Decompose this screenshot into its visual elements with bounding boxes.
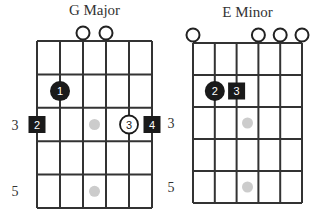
chord-e-minor: E Minor3523 [168,4,309,203]
finger-number: 4 [149,119,155,131]
finger-number: 3 [126,119,132,131]
chord-diagrams: G Major351234E Minor3523 [0,0,325,220]
fret-number-label: 3 [168,116,175,131]
finger-marker: 2 [29,116,46,133]
finger-marker: 1 [50,81,70,101]
finger-number: 1 [57,85,63,97]
fret-number-label: 3 [12,118,19,133]
open-string-circle-icon [77,27,90,40]
fret-inlay-dot-icon [242,118,253,129]
fret-number-label: 5 [168,180,175,195]
finger-marker: 3 [120,116,138,134]
fret-number-label: 5 [12,184,19,199]
finger-marker: 3 [228,83,245,100]
chord-g-major: G Major351234 [12,2,161,208]
fret-inlay-dot-icon [89,119,100,130]
open-string-circle-icon [252,29,265,42]
finger-marker: 4 [144,116,161,133]
chord-title: E Minor [222,4,272,20]
open-string-circle-icon [100,27,113,40]
open-string-circle-icon [274,29,287,42]
finger-number: 2 [212,85,218,97]
open-string-circle-icon [296,29,309,42]
chord-title: G Major [69,2,120,18]
fret-inlay-dot-icon [89,186,100,197]
open-string-circle-icon [187,29,200,42]
finger-marker: 2 [205,81,225,101]
finger-number: 2 [34,119,40,131]
finger-number: 3 [234,85,240,97]
fret-inlay-dot-icon [242,182,253,193]
